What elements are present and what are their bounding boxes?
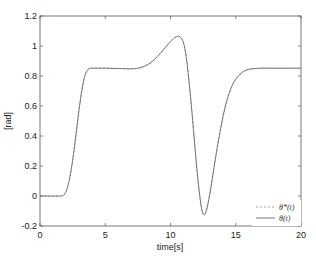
x-tick-label: 10 <box>165 230 175 240</box>
y-tick-label: 0.2 <box>24 161 37 171</box>
legend-label-actual: θ(t) <box>279 214 291 223</box>
y-tick-label: 0 <box>32 191 37 201</box>
line-chart: 05101520 -0.200.20.40.60.811.2 time[s] [… <box>0 0 316 258</box>
x-tick-label: 5 <box>103 230 108 240</box>
x-tick-label: 0 <box>37 230 42 240</box>
x-axis-label: time[s] <box>157 242 184 252</box>
x-tick-label: 20 <box>296 230 306 240</box>
y-tick-label: -0.2 <box>21 221 37 231</box>
legend-label-reference: θ*(t) <box>279 203 295 212</box>
y-tick-label: 0.8 <box>24 71 37 81</box>
y-tick-label: 1 <box>32 41 37 51</box>
y-axis-label: [rad] <box>3 112 13 130</box>
legend: θ*(t) θ(t) <box>252 200 301 226</box>
y-tick-label: 0.4 <box>24 131 37 141</box>
y-tick-label: 0.6 <box>24 101 37 111</box>
x-tick-label: 15 <box>231 230 241 240</box>
y-tick-label: 1.2 <box>24 11 37 21</box>
plot-area <box>40 16 301 226</box>
